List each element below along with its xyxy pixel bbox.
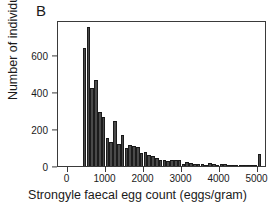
x-axis-title: Strongyle faecal egg count (eggs/gram) [0, 188, 275, 202]
x-tick-mark [257, 167, 258, 172]
y-tick-label: 0 [42, 162, 48, 173]
x-tick-label: 0 [64, 173, 70, 184]
x-tick-mark [143, 167, 144, 172]
histogram-bar [258, 154, 262, 166]
y-axis: 0200400600 [0, 21, 57, 167]
x-tick-mark [181, 167, 182, 172]
x-tick-mark [105, 167, 106, 172]
x-tick-mark [219, 167, 220, 172]
y-tick-label: 600 [31, 51, 48, 62]
panel-label: B [36, 3, 46, 18]
y-tick-label: 200 [31, 125, 48, 136]
plot-area [58, 22, 265, 166]
x-tick-mark [67, 167, 68, 172]
x-tick-label: 4000 [207, 173, 229, 184]
y-tick-label: 400 [31, 88, 48, 99]
x-axis: 010002000300040005000 [57, 167, 266, 189]
x-tick-label: 2000 [131, 173, 153, 184]
x-tick-label: 3000 [169, 173, 191, 184]
x-tick-label: 1000 [93, 173, 115, 184]
x-tick-label: 5000 [245, 173, 267, 184]
histogram-figure: B Number of individuals 0200400600 01000… [0, 0, 275, 212]
plot-frame [57, 21, 266, 167]
